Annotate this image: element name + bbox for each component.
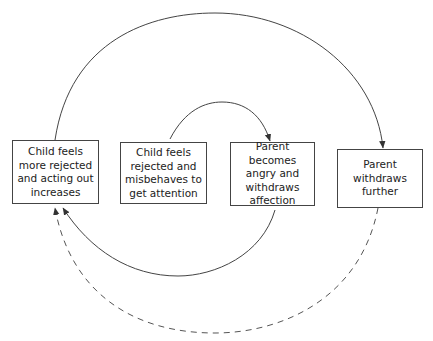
arrow-inner-top — [170, 102, 270, 141]
node-parent-withdraws: Parent withdraws further — [337, 149, 423, 208]
node-label: Child feels rejected and misbehaves to g… — [125, 146, 202, 200]
node-label: Parent withdraws further — [353, 158, 407, 199]
arrow-outer-top — [55, 13, 383, 148]
node-child-more-rejected: Child feels more rejected and acting out… — [12, 140, 99, 204]
node-child-rejected: Child feels rejected and misbehaves to g… — [120, 142, 207, 204]
node-label: Parent becomes angry and withdraws affec… — [234, 140, 311, 208]
arrow-outer-bottom-dashed — [55, 208, 378, 333]
node-parent-angry: Parent becomes angry and withdraws affec… — [230, 142, 315, 206]
node-label: Child feels more rejected and acting out… — [17, 145, 93, 199]
arrow-inner-bottom — [63, 208, 275, 276]
